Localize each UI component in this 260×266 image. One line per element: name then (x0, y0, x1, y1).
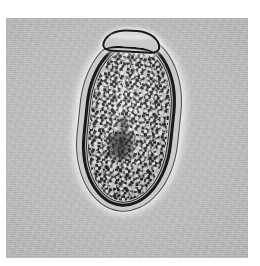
micrograph-figure (0, 0, 260, 266)
page-margin-right (248, 0, 260, 266)
micrograph-plate (6, 18, 248, 258)
page-margin-bottom (0, 258, 260, 266)
page-margin-top (0, 0, 260, 18)
egg-contents (82, 42, 176, 204)
page-margin-left (0, 0, 6, 266)
contents-shading (82, 42, 176, 204)
helminth-egg (67, 27, 191, 219)
